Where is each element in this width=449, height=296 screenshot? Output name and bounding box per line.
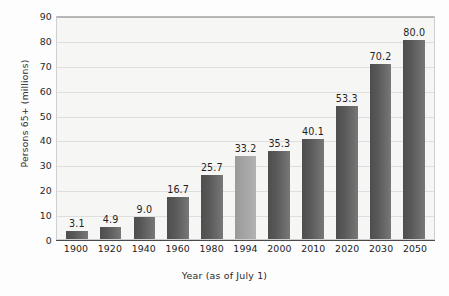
bar[interactable]: 35.3 [268,151,290,239]
x-tick-label: 2010 [296,243,330,254]
plot-area: 3.14.99.016.725.733.235.340.153.370.280.… [56,16,435,240]
bar-value-label: 40.1 [302,126,324,137]
bar-slot: 9.0 [127,17,161,239]
y-tick-label: 70 [40,60,52,71]
bar-value-label: 9.0 [137,204,153,215]
y-tick-label: 80 [40,35,52,46]
y-tick-label: 20 [40,185,52,196]
y-tick-label: 10 [40,210,52,221]
bar-slot: 80.0 [397,17,431,239]
x-tick-label: 1920 [93,243,127,254]
x-axis-tick-labels: 1900192019401960198019942000201020202030… [56,243,435,254]
bar[interactable]: 3.1 [66,231,88,239]
y-tick-label: 50 [40,110,52,121]
x-tick-label: 1980 [195,243,229,254]
bar-value-label: 3.1 [69,218,85,229]
bar[interactable]: 70.2 [370,64,392,239]
bar-value-label: 33.2 [235,143,257,154]
y-tick-label: 60 [40,85,52,96]
x-axis-line [56,240,435,241]
bar-slot: 53.3 [330,17,364,239]
x-tick-label: 1994 [229,243,263,254]
bar-value-label: 70.2 [370,51,392,62]
x-tick-label: 1900 [59,243,93,254]
bar-series: 3.14.99.016.725.733.235.340.153.370.280.… [57,17,434,239]
y-tick-label: 30 [40,160,52,171]
bar[interactable]: 25.7 [201,175,223,239]
bar-value-label: 80.0 [403,27,425,38]
x-tick-label: 2050 [398,243,432,254]
bar[interactable]: 53.3 [336,106,358,239]
bar-value-label: 4.9 [103,214,119,225]
bar-value-label: 16.7 [167,184,189,195]
x-tick-label: 1940 [127,243,161,254]
bar[interactable]: 80.0 [403,40,425,239]
y-tick-label: 0 [46,235,52,246]
bar-slot: 40.1 [296,17,330,239]
y-tick-label: 90 [40,11,52,22]
bar[interactable]: 9.0 [134,217,156,239]
bar-slot: 3.1 [60,17,94,239]
bar-slot: 25.7 [195,17,229,239]
x-tick-label: 1960 [161,243,195,254]
bar-value-label: 25.7 [201,162,223,173]
x-axis-title: Year (as of July 1) [0,270,449,281]
bar-slot: 70.2 [364,17,398,239]
bar-slot: 33.2 [229,17,263,239]
bar-chart-figure: Persons 65+ (millions) 01020304050607080… [0,0,449,296]
bar-slot: 35.3 [262,17,296,239]
bar[interactable]: 16.7 [167,197,189,239]
y-axis-tick-labels: 0102030405060708090 [26,16,52,240]
x-tick-label: 2020 [330,243,364,254]
bar-value-label: 35.3 [268,138,290,149]
y-tick-label: 40 [40,135,52,146]
bar-slot: 4.9 [94,17,128,239]
bar[interactable]: 33.2 [235,156,257,239]
bar-value-label: 53.3 [336,93,358,104]
bar[interactable]: 4.9 [100,227,122,239]
bar[interactable]: 40.1 [302,139,324,239]
x-tick-label: 2030 [364,243,398,254]
x-tick-label: 2000 [262,243,296,254]
bar-slot: 16.7 [161,17,195,239]
